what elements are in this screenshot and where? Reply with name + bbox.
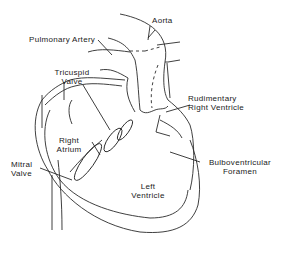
label-aorta: Aorta: [152, 16, 173, 25]
label-mitral-valve: Mitral Valve: [11, 160, 32, 178]
label-mv-line2: Valve: [11, 169, 32, 178]
label-tricuspid-line2: Valve: [50, 77, 94, 86]
label-bvf-line1: Bulboventricular: [201, 158, 279, 167]
label-rrv-line2: Right Ventricle: [188, 103, 244, 112]
heart-diagram: Aorta Pulmonary Artery Tricuspid Valve R…: [0, 0, 286, 256]
label-rrv-line1: Rudimentary: [188, 94, 244, 103]
label-ra-line1: Right: [52, 136, 86, 145]
label-mv-line1: Mitral: [11, 160, 32, 169]
label-lv-line2: Ventricle: [128, 191, 168, 200]
label-ra-line2: Atrium: [52, 145, 86, 154]
label-rudimentary-right-ventricle: Rudimentary Right Ventricle: [188, 94, 244, 112]
label-bulboventricular-foramen: Bulboventricular Foramen: [201, 158, 279, 176]
label-tricuspid-line1: Tricuspid: [50, 68, 94, 77]
label-right-atrium: Right Atrium: [52, 136, 86, 154]
label-left-ventricle: Left Ventricle: [128, 182, 168, 200]
label-pulmonary-artery: Pulmonary Artery: [29, 35, 95, 44]
label-tricuspid-valve: Tricuspid Valve: [50, 68, 94, 86]
label-bvf-line2: Foramen: [201, 167, 279, 176]
label-lv-line1: Left: [128, 182, 168, 191]
